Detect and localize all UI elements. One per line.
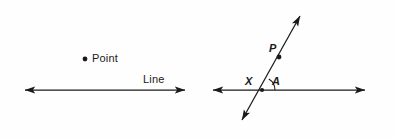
point-label: Point bbox=[92, 53, 118, 64]
label-a: A bbox=[272, 76, 280, 87]
label-x: X bbox=[245, 76, 252, 87]
intersection-point-X bbox=[260, 88, 264, 92]
point-dot bbox=[83, 57, 88, 62]
diagram-svg bbox=[0, 0, 397, 139]
right-panel-group bbox=[213, 16, 365, 120]
point-dot-P bbox=[277, 55, 282, 60]
diagram-canvas: Point Line P X A bbox=[0, 0, 397, 139]
label-p: P bbox=[269, 43, 276, 54]
slanted-line bbox=[242, 16, 300, 120]
line-label: Line bbox=[143, 74, 165, 85]
